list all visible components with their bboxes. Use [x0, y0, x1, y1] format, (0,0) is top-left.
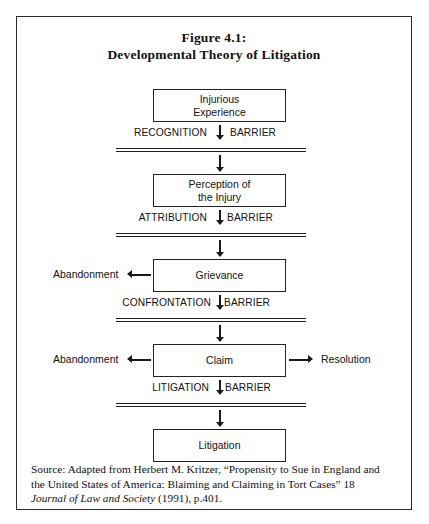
- arrow-to-claim: [214, 325, 225, 343]
- source-note-line-2: the United States of America: Blaiming a…: [31, 477, 401, 492]
- source-note: Source: Adapted from Herbert M. Kritzer,…: [31, 462, 401, 506]
- node-litigation-label: Litigation: [198, 439, 240, 452]
- barrier-litigation-rule: [116, 403, 306, 407]
- source-note-line-3: Journal of Law and Society (1991), p.401…: [31, 491, 401, 506]
- source-journal-title: Journal of Law and Society: [31, 492, 155, 504]
- barrier-attribution-rule: [116, 233, 306, 237]
- source-journal-citation: (1991), p.401.: [155, 492, 222, 504]
- barrier-attribution-down-arrow-icon: [214, 210, 225, 226]
- barrier-recognition-right-label: BARRIER: [230, 127, 350, 138]
- node-litigation: Litigation: [153, 429, 286, 462]
- barrier-confrontation-left-label: CONFRONTATION: [45, 297, 211, 308]
- barrier-litigation-left-label: LITIGATION: [57, 382, 209, 393]
- node-perception-of-injury-line-2: the Injury: [189, 191, 251, 204]
- claim-abandonment-left-arrow-icon: [127, 354, 151, 365]
- barrier-recognition-rule: [116, 148, 306, 152]
- node-injurious-experience: Injurious Experience: [153, 89, 286, 122]
- barrier-litigation-right-label: BARRIER: [225, 382, 345, 393]
- node-grievance: Grievance: [153, 259, 286, 292]
- source-note-line-1: Source: Adapted from Herbert M. Kritzer,…: [31, 462, 401, 477]
- claim-resolution-label: Resolution: [321, 353, 371, 365]
- flow-diagram: Injurious Experience RECOGNITION BARRIER…: [17, 17, 413, 511]
- grievance-abandonment-label: Abandonment: [53, 268, 118, 280]
- arrow-to-grievance: [214, 240, 225, 258]
- barrier-confrontation-rule: [116, 318, 306, 322]
- node-perception-of-injury: Perception of the Injury: [153, 174, 286, 207]
- barrier-attribution-right-label: BARRIER: [227, 212, 347, 223]
- node-grievance-label: Grievance: [196, 269, 244, 282]
- node-injurious-experience-line-2: Experience: [193, 106, 246, 119]
- barrier-litigation-down-arrow-icon: [214, 380, 225, 396]
- barrier-attribution-left-label: ATTRIBUTION: [55, 212, 207, 223]
- claim-abandonment-label: Abandonment: [53, 353, 118, 365]
- grievance-abandonment-left-arrow-icon: [127, 269, 151, 280]
- barrier-confrontation-right-label: BARRIER: [224, 297, 344, 308]
- node-injurious-experience-line-1: Injurious: [193, 93, 246, 106]
- claim-resolution-right-arrow-icon: [289, 354, 313, 365]
- node-perception-of-injury-line-1: Perception of: [189, 178, 251, 191]
- barrier-recognition-left-label: RECOGNITION: [47, 127, 207, 138]
- node-claim: Claim: [153, 344, 286, 377]
- arrow-to-litigation: [214, 410, 225, 428]
- node-claim-label: Claim: [206, 354, 233, 367]
- figure-frame: Figure 4.1: Developmental Theory of Liti…: [16, 16, 412, 510]
- arrow-to-perception-of-injury: [214, 155, 225, 173]
- barrier-recognition-down-arrow-icon: [214, 125, 225, 141]
